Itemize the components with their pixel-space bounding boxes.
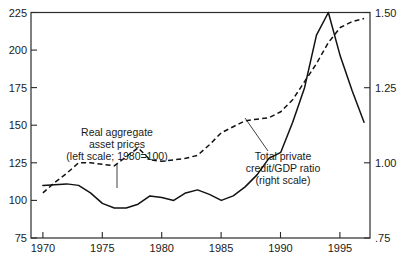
left-annotation-line-1: Real aggregate: [81, 126, 153, 138]
left-series-annotation: Real aggregate asset prices (left scale;…: [66, 126, 167, 188]
right-tick-label: 1.00: [375, 157, 396, 169]
right-annotation-line-3: (right scale): [256, 174, 311, 186]
left-tick-label: 150: [9, 119, 27, 131]
left-tick-label: 75: [15, 232, 27, 244]
left-tick-label: 175: [9, 82, 27, 94]
left-annotation-line-3: (left scale; 1980=100): [66, 150, 167, 162]
right-annotation-line-2: credit/GDP ratio: [246, 162, 321, 174]
right-series-annotation: Total private credit/GDP ratio (right sc…: [245, 118, 320, 186]
right-axis-tick-labels: 1.50 1.25 1.00 .75: [375, 7, 396, 245]
x-axis-tick-labels: 1970 1975 1980 1985 1990 1995: [31, 242, 352, 254]
x-axis-ticks: [43, 232, 340, 238]
x-tick-label: 1975: [90, 242, 114, 254]
left-tick-label: 125: [9, 157, 27, 169]
left-tick-label: 100: [9, 194, 27, 206]
right-tick-label: 1.50: [375, 7, 396, 19]
right-tick-label: .75: [375, 232, 390, 244]
left-annotation-line-2: asset prices: [89, 138, 145, 150]
x-tick-label: 1985: [209, 242, 233, 254]
chart-canvas: 225 200 175 150 125 100 75 1.50 1.25 1.0…: [0, 0, 406, 274]
chart-figure: 225 200 175 150 125 100 75 1.50 1.25 1.0…: [0, 0, 406, 274]
x-tick-label: 1995: [328, 242, 352, 254]
right-annotation-line-1: Total private: [255, 150, 312, 162]
right-tick-label: 1.25: [375, 82, 396, 94]
series-line-asset-prices: [43, 13, 364, 208]
left-tick-label: 200: [9, 44, 27, 56]
left-axis-tick-labels: 225 200 175 150 125 100 75: [9, 7, 27, 245]
left-tick-label: 225: [9, 7, 27, 19]
left-axis-ticks: [31, 13, 37, 239]
right-annotation-leader-line: [245, 118, 268, 151]
x-tick-label: 1990: [268, 242, 292, 254]
x-tick-label: 1970: [31, 242, 55, 254]
right-axis-ticks: [364, 13, 370, 239]
x-tick-label: 1980: [149, 242, 173, 254]
